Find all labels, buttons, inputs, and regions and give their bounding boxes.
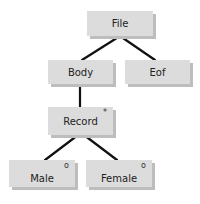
node-male: Male o [9,160,75,187]
node-label: File [112,18,129,29]
edge-record-female [84,135,117,160]
node-file: File [87,11,153,36]
node-record: Record * [48,107,113,135]
edge-file-eof [120,36,155,60]
iteration-asterisk-marker: * [103,109,107,117]
edge-record-male [45,135,78,160]
node-female: Female o [86,160,152,187]
node-eof: Eof [125,60,190,84]
node-label: Eof [150,67,166,78]
node-label: Female [101,173,137,184]
node-label: Body [68,67,93,78]
jackson-structure-diagram: File Body Eof Record * Male o Female o [0,0,200,204]
selection-circle-marker: o [64,162,69,170]
node-label: Male [30,173,54,184]
node-body: Body [48,60,113,84]
edge-file-body [82,36,120,60]
node-label: Record [63,116,98,127]
selection-circle-marker: o [141,162,146,170]
